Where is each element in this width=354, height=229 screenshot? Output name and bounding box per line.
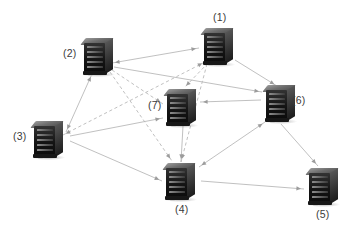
network-diagram: (1)(2)(3)(4)(5)(6)(7) xyxy=(0,0,354,229)
edge-arrowhead xyxy=(258,124,263,128)
edge-arrowhead xyxy=(166,154,170,159)
edge-arrowhead xyxy=(269,80,274,84)
edge-arrowhead xyxy=(296,186,301,190)
edge-arrowhead xyxy=(191,47,196,51)
edge-line xyxy=(112,48,199,63)
edge-line xyxy=(70,141,162,181)
edge-line xyxy=(66,74,92,132)
edge-line xyxy=(110,72,172,161)
edge-arrowhead xyxy=(254,89,259,93)
node-label-2: (2) xyxy=(63,48,76,59)
node-label-6: (6) xyxy=(292,95,305,106)
node-server-1[interactable] xyxy=(201,28,239,68)
server-rack-icon xyxy=(306,168,344,208)
edge-3-7 xyxy=(70,117,163,136)
edge-2-1 xyxy=(112,47,199,64)
edge-1-6 xyxy=(235,60,277,86)
node-server-7[interactable] xyxy=(164,89,202,129)
node-label-5: (5) xyxy=(316,209,329,220)
node-server-3[interactable] xyxy=(31,121,69,161)
edge-2-3 xyxy=(66,74,92,132)
server-rack-icon xyxy=(164,89,202,129)
node-server-2[interactable] xyxy=(81,38,119,78)
node-label-3: (3) xyxy=(13,131,26,142)
edge-arrowhead xyxy=(203,100,208,104)
server-rack-icon xyxy=(163,163,201,203)
edge-2-4 xyxy=(110,72,172,161)
edge-line xyxy=(70,118,163,136)
edge-3-4 xyxy=(70,141,162,181)
node-label-4: (4) xyxy=(175,204,188,215)
node-server-5[interactable] xyxy=(306,168,344,208)
edge-6-5 xyxy=(281,124,318,166)
edge-arrowhead xyxy=(155,117,160,121)
node-label-1: (1) xyxy=(213,12,226,23)
edge-4-5 xyxy=(201,181,304,191)
server-rack-icon xyxy=(201,28,239,68)
edge-arrowhead xyxy=(201,161,206,165)
edge-line xyxy=(201,181,304,189)
edge-6-7 xyxy=(200,100,261,104)
edge-6-4 xyxy=(199,122,265,167)
server-rack-icon xyxy=(81,38,119,78)
edge-line xyxy=(200,100,261,102)
edge-line xyxy=(281,124,318,166)
node-label-7: (7) xyxy=(148,100,161,111)
server-rack-icon xyxy=(31,121,69,161)
node-server-4[interactable] xyxy=(163,163,201,203)
edge-line xyxy=(199,122,265,167)
